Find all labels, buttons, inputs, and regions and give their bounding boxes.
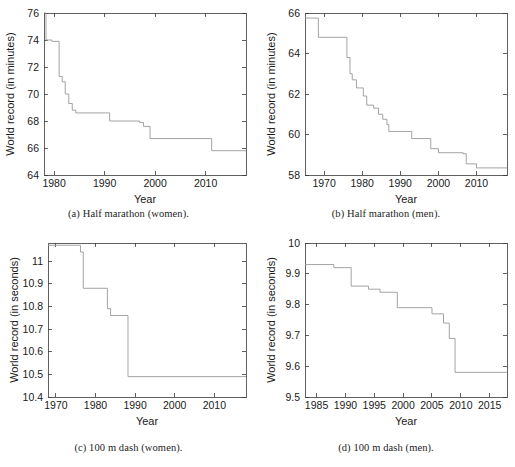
- 100m-dash-men-xtick-label: 1995: [363, 399, 387, 411]
- half-marathon-men-xtick-label: 1980: [350, 177, 374, 189]
- half-marathon-men-ytick-label: 66: [288, 7, 300, 19]
- 100m-dash-men-ytick-label: 9.7: [285, 329, 300, 341]
- chart-100m-dash-men: 19851990199520002005201020159.59.69.79.8…: [257, 230, 515, 435]
- half-marathon-women-xaxis-title: Year: [134, 193, 157, 205]
- 100m-dash-women-ytick-label: 10.7: [23, 323, 44, 335]
- 100m-dash-women-yaxis-title: World record (in seconds): [8, 257, 20, 383]
- 100m-dash-women-xtick-label: 1970: [44, 399, 68, 411]
- half-marathon-women-ytick-label: 64: [27, 169, 39, 181]
- panel-caption-d: (d) 100 m dash (men).: [257, 442, 515, 453]
- half-marathon-men-xtick-label: 1970: [312, 177, 336, 189]
- 100m-dash-women-ytick-label: 11: [32, 255, 43, 267]
- 100m-dash-men-ytick-label: 9.5: [285, 391, 300, 403]
- half-marathon-women-ytick-label: 66: [27, 142, 39, 154]
- 100m-dash-men-ytick-label: 9.9: [285, 267, 300, 279]
- 100m-dash-women-ytick-label: 10.9: [23, 277, 44, 289]
- 100m-dash-men-xtick-label: 1990: [334, 399, 358, 411]
- 100m-dash-women-ytick-label: 10.8: [23, 300, 44, 312]
- 100m-dash-men-yaxis-title: World record (in seconds): [265, 257, 277, 383]
- panel-half-marathon-men: 197019801990200020105860626466YearWorld …: [257, 0, 515, 230]
- figure-panel-grid: 198019902000201064666870727476YearWorld …: [0, 0, 515, 467]
- panel-half-marathon-women: 198019902000201064666870727476YearWorld …: [0, 0, 257, 230]
- 100m-dash-women-xtick-label: 1990: [123, 399, 147, 411]
- 100m-dash-men-xtick-label: 2015: [478, 399, 502, 411]
- half-marathon-men-ytick-label: 60: [288, 128, 300, 140]
- chart-half-marathon-men: 197019801990200020105860626466YearWorld …: [257, 0, 515, 205]
- 100m-dash-men-ytick-label: 10: [288, 237, 300, 249]
- 100m-dash-women-plot-box: [48, 243, 246, 397]
- 100m-dash-men-xtick-label: 2000: [391, 399, 415, 411]
- 100m-dash-women-ytick-label: 10.4: [23, 391, 44, 403]
- panel-100m-dash-men: 19851990199520002005201020159.59.69.79.8…: [257, 230, 515, 467]
- 100m-dash-men-xtick-label: 2005: [420, 399, 444, 411]
- 100m-dash-men-step-line: [305, 265, 507, 373]
- 100m-dash-women-xaxis-title: Year: [136, 415, 159, 427]
- panel-caption-a: (a) Half marathon (women).: [0, 208, 257, 219]
- 100m-dash-men-ytick-label: 9.8: [285, 298, 300, 310]
- half-marathon-women-yaxis-title: World record (in minutes): [4, 32, 16, 155]
- half-marathon-women-ytick-label: 70: [27, 88, 39, 100]
- half-marathon-women-xtick-label: 1990: [93, 177, 117, 189]
- half-marathon-men-ytick-label: 64: [288, 47, 300, 59]
- half-marathon-men-xtick-label: 2010: [465, 177, 489, 189]
- panel-caption-b: (b) Half marathon (men).: [257, 208, 515, 219]
- chart-half-marathon-women: 198019902000201064666870727476YearWorld …: [0, 0, 257, 205]
- 100m-dash-men-xtick-label: 2010: [449, 399, 473, 411]
- half-marathon-men-step-line: [305, 18, 507, 168]
- 100m-dash-women-ytick-label: 10.6: [23, 345, 44, 357]
- half-marathon-women-xtick-label: 1980: [42, 177, 66, 189]
- half-marathon-women-xtick-label: 2000: [143, 177, 167, 189]
- half-marathon-men-ytick-label: 58: [288, 169, 300, 181]
- 100m-dash-women-xtick-label: 2010: [203, 399, 227, 411]
- half-marathon-men-ytick-label: 62: [288, 88, 300, 100]
- 100m-dash-women-ytick-label: 10.5: [23, 368, 44, 380]
- 100m-dash-men-xtick-label: 1985: [305, 399, 329, 411]
- half-marathon-men-yaxis-title: World record (in minutes): [265, 32, 277, 155]
- panel-100m-dash-women: 1970198019902000201010.410.510.610.710.8…: [0, 230, 257, 467]
- 100m-dash-women-xtick-label: 2000: [163, 399, 187, 411]
- half-marathon-men-xtick-label: 1990: [389, 177, 413, 189]
- 100m-dash-men-plot-box: [305, 243, 507, 397]
- half-marathon-women-xtick-label: 2010: [194, 177, 218, 189]
- chart-100m-dash-women: 1970198019902000201010.410.510.610.710.8…: [0, 230, 257, 435]
- half-marathon-women-ytick-label: 72: [27, 61, 39, 73]
- half-marathon-men-xaxis-title: Year: [395, 193, 418, 205]
- 100m-dash-men-xaxis-title: Year: [395, 415, 418, 427]
- half-marathon-women-ytick-label: 76: [27, 7, 39, 19]
- half-marathon-men-xtick-label: 2000: [427, 177, 451, 189]
- 100m-dash-men-ytick-label: 9.6: [285, 360, 300, 372]
- 100m-dash-women-step-line: [48, 245, 246, 376]
- 100m-dash-women-xtick-label: 1980: [84, 399, 108, 411]
- half-marathon-women-ytick-label: 68: [27, 115, 39, 127]
- panel-caption-c: (c) 100 m dash (women).: [0, 442, 257, 453]
- half-marathon-women-ytick-label: 74: [27, 34, 39, 46]
- half-marathon-women-step-line: [44, 13, 246, 151]
